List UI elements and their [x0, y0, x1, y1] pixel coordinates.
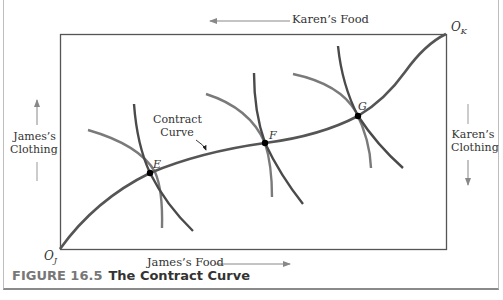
karen-clothing-label: Karen’s Clothing — [451, 128, 495, 154]
contract-curve-label-line1: Contract — [153, 113, 201, 126]
origin-james-sub: J — [54, 256, 57, 265]
karen-indifference-curve-g — [293, 74, 371, 168]
figure-caption: FIGURE 16.5The Contract Curve — [12, 268, 250, 283]
karen-indifference-curve-f — [206, 94, 272, 197]
point-g — [355, 113, 361, 119]
karen-clothing-label-line1: Karen’s — [451, 128, 495, 141]
karen-clothing-label-line2: Clothing — [451, 141, 495, 154]
origin-karen-sub: K — [461, 27, 467, 36]
point-f — [262, 140, 268, 146]
figure-number: FIGURE 16.5 — [12, 268, 102, 283]
contract-curve-label-line2: Curve — [153, 126, 201, 139]
james-clothing-label-line1: James’s — [10, 130, 56, 143]
contract-curve-label: Contract Curve — [153, 113, 201, 139]
origin-karen-letter: O — [451, 20, 461, 34]
point-e-label: E — [153, 158, 161, 171]
james-clothing-label: James’s Clothing — [10, 130, 56, 156]
point-g-label: G — [358, 100, 367, 113]
figure-title: The Contract Curve — [108, 268, 250, 283]
origin-karen: OK — [451, 21, 467, 38]
contract-curve-pointer — [196, 140, 206, 150]
point-f-label: F — [269, 129, 277, 142]
karen-food-label: Karen’s Food — [292, 13, 369, 26]
james-clothing-label-line2: Clothing — [10, 143, 56, 156]
origin-james-letter: O — [44, 249, 54, 263]
origin-james: OJ — [44, 250, 57, 267]
karen-indifference-curve-e — [88, 130, 162, 228]
edgeworth-box-diagram — [0, 0, 503, 300]
